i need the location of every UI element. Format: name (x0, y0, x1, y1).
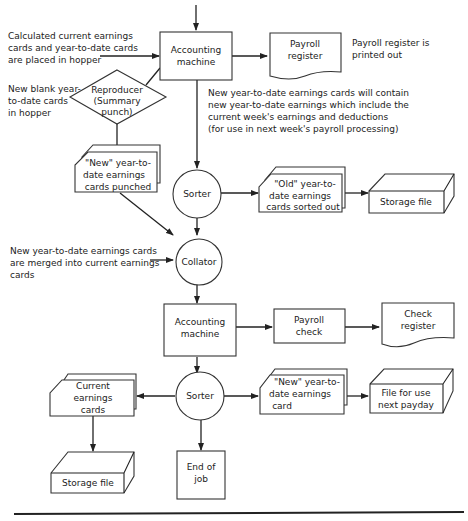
svg-text:New year-to-date earnings card: New year-to-date earnings cards (10, 246, 157, 256)
svg-text:Accounting: Accounting (175, 317, 225, 327)
payroll-check-box: Payroll check (274, 309, 345, 343)
svg-text:New year-to-date earnings card: New year-to-date earnings cards will con… (208, 88, 409, 98)
note-merge: New year-to-date earnings cards are merg… (10, 246, 160, 280)
next-payday-file: File for use next payday (370, 369, 453, 413)
svg-text:"Old" year-to-: "Old" year-to- (274, 179, 336, 189)
svg-text:(for use in next week's payrol: (for use in next week's payroll processi… (208, 124, 399, 134)
svg-text:are merged into current earnin: are merged into current earnings (10, 258, 160, 268)
svg-text:End of: End of (187, 462, 216, 472)
end-of-job-box: End of job (177, 451, 225, 499)
svg-text:(Summary: (Summary (93, 96, 141, 106)
bottom-rule (14, 512, 464, 514)
collator-circle: Collator (176, 239, 222, 285)
svg-text:Payroll register is: Payroll register is (352, 38, 430, 48)
svg-text:register: register (288, 51, 323, 61)
svg-text:printed out: printed out (352, 50, 402, 60)
svg-text:punch): punch) (101, 107, 132, 117)
svg-text:date earnings: date earnings (83, 170, 145, 180)
svg-text:to-date cards: to-date cards (8, 96, 68, 106)
svg-text:machine: machine (181, 329, 220, 339)
current-earnings-cards-deck: Current earnings cards (50, 374, 136, 416)
svg-text:current week's earnings and de: current week's earnings and deductions (208, 112, 388, 122)
svg-text:Payroll: Payroll (290, 39, 320, 49)
new-ytd-cards-punched-deck: "New" year-to- date earnings cards punch… (75, 145, 160, 192)
svg-text:cards: cards (10, 270, 35, 280)
note-blank-cards: New blank year- to-date cards in hopper (8, 84, 81, 118)
svg-text:Reproducer: Reproducer (91, 85, 143, 95)
svg-text:Sorter: Sorter (183, 189, 211, 199)
svg-text:in hopper: in hopper (8, 108, 51, 118)
svg-text:date earnings: date earnings (269, 389, 331, 399)
accounting-machine-2: Accounting machine (164, 304, 236, 356)
svg-text:Storage file: Storage file (62, 478, 114, 488)
storage-file-2: Storage file (51, 452, 134, 493)
note-hopper-input: Calculated current earnings cards and ye… (8, 31, 138, 65)
sorter-1-circle: Sorter (173, 170, 221, 218)
svg-text:machine: machine (177, 57, 216, 67)
svg-text:"New" year-to-: "New" year-to- (85, 158, 151, 168)
svg-text:Storage file: Storage file (380, 197, 432, 207)
payroll-flowchart: Accounting machine Payroll register Repr… (0, 0, 468, 521)
accounting-machine-1: Accounting machine (160, 32, 232, 80)
svg-text:earnings: earnings (74, 393, 113, 403)
svg-text:cards and year-to-date cards: cards and year-to-date cards (8, 43, 138, 53)
svg-text:Collator: Collator (181, 257, 216, 267)
svg-text:cards sorted out: cards sorted out (266, 202, 340, 212)
svg-text:Calculated current earnings: Calculated current earnings (8, 31, 133, 41)
svg-text:"New" year-to-: "New" year-to- (274, 377, 340, 387)
storage-file-1: Storage file (369, 174, 454, 213)
old-ytd-cards-deck: "Old" year-to- date earnings cards sorte… (259, 167, 345, 212)
svg-text:card: card (272, 401, 292, 411)
svg-text:next payday: next payday (378, 400, 435, 410)
svg-text:date earnings: date earnings (269, 191, 331, 201)
note-new-ytd-explanation: New year-to-date earnings cards will con… (208, 88, 409, 134)
svg-text:cards punched: cards punched (85, 182, 151, 192)
svg-text:Accounting: Accounting (171, 45, 221, 55)
svg-text:Sorter: Sorter (186, 391, 214, 401)
check-register-document: Check register (382, 303, 454, 347)
svg-text:New blank year-: New blank year- (8, 84, 81, 94)
svg-text:check: check (296, 327, 323, 337)
svg-text:Current: Current (76, 381, 110, 391)
new-ytd-card-deck: "New" year-to- date earnings card (260, 369, 347, 414)
svg-text:Payroll: Payroll (294, 315, 324, 325)
svg-text:job: job (193, 474, 208, 484)
svg-text:are placed in hopper: are placed in hopper (8, 55, 101, 65)
svg-text:File for use: File for use (381, 388, 431, 398)
svg-text:register: register (401, 321, 436, 331)
svg-text:new year-to-date earnings whic: new year-to-date earnings which include … (208, 100, 409, 110)
note-register-printed: Payroll register is printed out (352, 38, 430, 60)
svg-text:cards: cards (81, 405, 106, 415)
sorter-2-circle: Sorter (176, 372, 224, 420)
payroll-register-document: Payroll register (270, 33, 341, 79)
svg-text:Check: Check (404, 309, 432, 319)
